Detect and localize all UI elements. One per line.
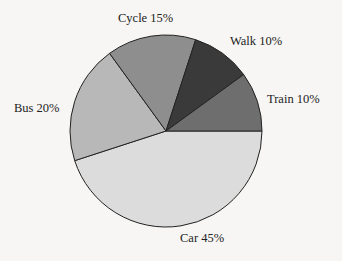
label-bus: Bus 20%: [14, 101, 60, 116]
pie-chart: [0, 0, 342, 261]
label-train: Train 10%: [267, 92, 320, 107]
label-cycle: Cycle 15%: [118, 11, 173, 26]
label-car: Car 45%: [180, 231, 224, 246]
label-walk: Walk 10%: [230, 34, 282, 49]
